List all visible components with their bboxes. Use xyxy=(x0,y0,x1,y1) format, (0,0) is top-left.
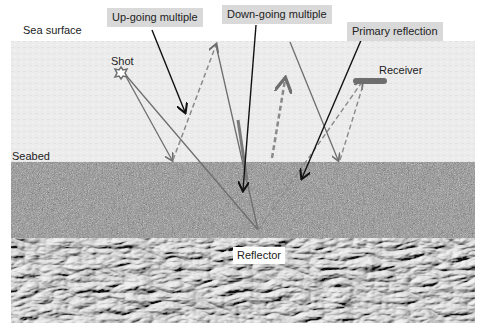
receiver-icon xyxy=(353,78,387,84)
down-going-multiple-label: Down-going multiple xyxy=(222,5,332,24)
shot-icon xyxy=(115,67,127,79)
ray-paths xyxy=(0,0,484,331)
shot-to-reflector-ray xyxy=(124,73,258,230)
receiver-label: Receiver xyxy=(379,64,422,77)
sea-surface-label: Sea surface xyxy=(23,24,82,37)
shot-to-seabed-ray xyxy=(124,73,172,160)
surface-to-seabed-ray xyxy=(290,42,338,160)
primary-reflection-pointer xyxy=(302,38,362,178)
seabed-to-receiver-ray xyxy=(340,82,364,160)
up-going-multiple-label: Up-going multiple xyxy=(107,8,203,27)
up-going-multiple-ray xyxy=(173,45,216,160)
primary-reflection-label: Primary reflection xyxy=(347,22,443,41)
reflector-label: Reflector xyxy=(233,247,285,264)
seabed-label: Seabed xyxy=(12,150,50,163)
shot-label: Shot xyxy=(111,55,134,68)
down-going-multiple-pointer xyxy=(243,25,256,190)
up-going-thick-ray xyxy=(272,80,285,158)
up-going-multiple-pointer xyxy=(152,30,185,112)
